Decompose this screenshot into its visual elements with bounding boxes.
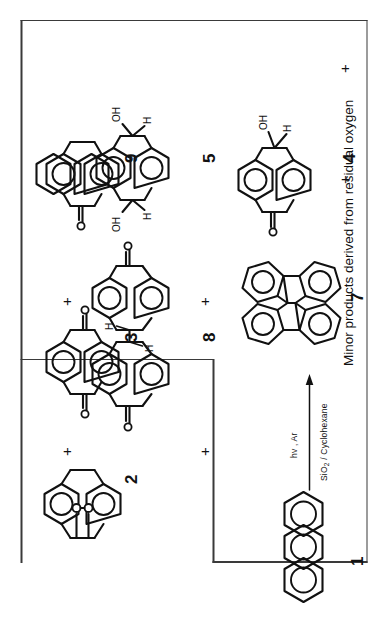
reaction-arrow: [304, 374, 314, 490]
plus-sign-b: +: [336, 64, 351, 73]
plus-sign-c: +: [196, 297, 211, 306]
structure-anthrone-main: [36, 98, 128, 218]
box-border-right: [20, 20, 367, 22]
compound-label-8: 8: [200, 333, 217, 342]
compound-label-2: 2: [122, 475, 139, 484]
arrow-top-label: hv , Ar: [288, 433, 298, 459]
arrow-bottom-label: SiO2 / Cyclohexane: [318, 403, 330, 481]
compound-label-3: 3: [122, 333, 139, 342]
atom-label-h-4: H: [281, 125, 292, 132]
plus-sign-d: +: [196, 447, 211, 456]
structure-hydroxy-anthrone: OH H: [228, 98, 320, 218]
box-border-notch-horizontal: [212, 359, 214, 563]
atom-label-h-5-left: H: [141, 213, 152, 220]
arrow-bottom-label-sub: 2: [323, 462, 330, 466]
atom-label-oh-5-left: OH: [110, 217, 121, 232]
structure-anthracene: [268, 510, 338, 610]
compound-label-1: 1: [348, 557, 365, 566]
structure-dianthracene-dimer: [240, 236, 344, 356]
atom-label-oh-4: OH: [257, 115, 268, 130]
structure-endoperoxide: [36, 428, 128, 548]
reaction-scheme-canvas: 1 hv , Ar SiO2 / Cyclohexane: [0, 0, 387, 618]
arrow-bottom-label-pre: SiO: [318, 466, 328, 481]
box-caption: Minor products derived from residual oxy…: [340, 100, 355, 366]
arrow-bottom-label-post: / Cyclohexane: [318, 403, 328, 462]
structure-anthraquinone: [36, 280, 128, 420]
box-border-bottom: [366, 20, 368, 563]
compound-label-5: 5: [200, 154, 217, 163]
atom-label-h-8-lower: H: [143, 345, 154, 352]
atom-label-h-5-right: H: [141, 117, 152, 124]
compound-label-9: 9: [122, 154, 139, 163]
